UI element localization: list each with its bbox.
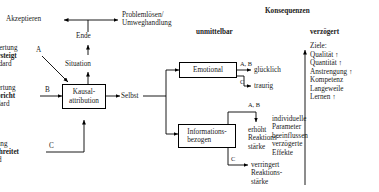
consequence-item: Qualität ↑ (310, 51, 353, 59)
info-marker-ab: A, B (248, 101, 260, 109)
input-c-line3: Standard (0, 156, 2, 164)
arrow-selbst-emotional (166, 70, 179, 96)
consequence-item: Kompetenz (310, 76, 353, 84)
consequence-item: Anstrengung ↑ (310, 68, 353, 76)
heading-verzoegert: verzögert (310, 28, 339, 36)
consequence-item: Lernen ↑ (310, 93, 353, 101)
heading-unmittelbar: unmittelbar (196, 28, 233, 36)
consequences-list: Qualität ↑ Quantität ↑ Anstrengung ↑ Kom… (310, 51, 353, 101)
node-problemloesen: Problemlösen/ Umweghandlung (122, 11, 172, 28)
box-emotional[interactable]: Emotional (179, 62, 237, 78)
node-selbst: Selbst (121, 92, 139, 100)
arrow-selbst-info (166, 96, 178, 134)
emotional-outcome-gluecklich: glücklich (254, 66, 281, 74)
emotional-marker-ab: A, B (240, 60, 252, 68)
node-situation: Situation (65, 60, 91, 68)
box-kausalattribution[interactable]: Kausal- attribution (62, 84, 106, 109)
input-c-line2: unterschreitet (0, 148, 19, 156)
box-emotional-label: Emotional (193, 66, 223, 74)
info-outcome-verringert: verringert Reaktions- stärke (251, 161, 282, 186)
diagram-canvas: Akzeptieren Problemlösen/ Umweghandlung … (0, 0, 379, 192)
box-kausalattribution-label: Kausal- attribution (69, 88, 99, 104)
consequence-item: Quantität ↑ (310, 59, 353, 67)
marker-a: A (36, 46, 41, 54)
emotional-marker-c: C (240, 78, 244, 86)
note-individuelle-parameter: individuelle Parameter beeinflussen verz… (272, 115, 308, 157)
info-marker-c: C (231, 155, 235, 163)
node-akzeptieren: Akzeptieren (6, 15, 41, 23)
consequence-item: Langeweile (310, 85, 353, 93)
arrow-info-ab (228, 112, 256, 124)
marker-c: C (49, 142, 54, 150)
consequences-heading: Ziele: (310, 42, 327, 50)
input-a-line3: Standard (0, 60, 12, 68)
box-informationsbezogen[interactable]: Informations- bezogen (178, 124, 236, 148)
input-b-line3: Standard (0, 100, 10, 108)
box-informationsbezogen-label: Informations- bezogen (187, 128, 227, 144)
marker-b: B (45, 86, 50, 94)
node-ende: Ende (76, 32, 91, 40)
heading-konsequenzen: Konsequenzen (265, 7, 310, 15)
emotional-outcome-traurig: traurig (254, 82, 273, 90)
